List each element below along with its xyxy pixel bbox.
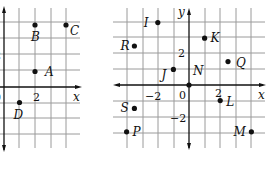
point-label-s: S — [120, 101, 128, 115]
point-p — [124, 129, 129, 134]
point-label-p: P — [132, 125, 142, 139]
point-label-l: L — [225, 95, 234, 109]
point-label-q: Q — [236, 56, 246, 70]
x-tick-2: 2 — [215, 87, 222, 100]
y-axis-arrow-icon — [187, 8, 191, 15]
y-tick-neg2: −2 — [170, 112, 186, 125]
y-tick-2: 2 — [178, 47, 185, 60]
point-c — [63, 22, 68, 27]
x-axis-arrow-icon — [259, 83, 266, 87]
point-b — [32, 22, 37, 27]
point-j — [171, 67, 176, 72]
point-label-d: D — [13, 108, 24, 122]
point-label-c: C — [70, 24, 79, 38]
point-label-j: J — [158, 68, 167, 82]
point-label-r: R — [119, 39, 129, 53]
point-k — [202, 36, 207, 41]
point-label-a: A — [44, 65, 54, 79]
coordinate-plane-figures: x 2 0 2 ABCD — [0, 0, 279, 171]
point-q — [225, 59, 230, 64]
point-m — [249, 129, 254, 134]
x-axis-label: x — [258, 88, 265, 102]
left-grid — [0, 8, 80, 148]
point-label-n: N — [192, 64, 204, 78]
point-i — [155, 20, 160, 25]
x-tick-2: 2 — [33, 91, 40, 104]
point-label-m: M — [232, 125, 246, 139]
point-d — [17, 100, 22, 105]
y-tick-2: 2 — [0, 49, 1, 62]
point-l — [218, 98, 223, 103]
y-axis-arrow-down-icon — [187, 143, 191, 150]
left-graph: x 2 0 2 ABCD — [0, 6, 82, 152]
x-axis-arrow-icon — [75, 85, 82, 89]
point-r — [132, 43, 137, 48]
x-tick-0: 0 — [0, 91, 1, 104]
x-axis-arrow-left-icon — [113, 83, 120, 87]
y-axis-arrow-down-icon — [2, 145, 6, 152]
point-n — [186, 82, 191, 87]
right-points: IKRQJNLSPM — [119, 16, 254, 139]
point-label-k: K — [210, 31, 221, 45]
left-points: ABCD — [13, 22, 80, 121]
y-axis-arrow-icon — [2, 6, 6, 13]
point-label-i: I — [143, 16, 149, 30]
point-a — [32, 69, 37, 74]
x-tick-neg2: −2 — [145, 90, 161, 103]
right-graph: x y −2 0 2 2 −2 IKRQJNLSPM — [113, 5, 266, 150]
x-tick-0: 0 — [179, 89, 186, 102]
x-axis-label: x — [73, 90, 80, 104]
y-axis-label: y — [177, 5, 185, 19]
point-label-b: B — [30, 30, 40, 44]
point-s — [132, 106, 137, 111]
